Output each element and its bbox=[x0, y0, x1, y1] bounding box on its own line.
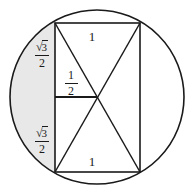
label-sqrt3-over-2-upper: √3 2 bbox=[28, 38, 56, 71]
fraction-sqrt3-over-2-lower: √3 2 bbox=[35, 126, 49, 155]
fraction-sqrt3-over-2-upper: √3 2 bbox=[35, 40, 49, 69]
fraction-denominator: 2 bbox=[38, 57, 46, 70]
fraction-denominator: 2 bbox=[38, 143, 46, 156]
geometry-figure: √3 2 1 2 √3 2 1 1 bbox=[0, 0, 191, 194]
label-sqrt3-over-2-lower: √3 2 bbox=[28, 124, 56, 157]
radical-radicand: 3 bbox=[42, 126, 49, 139]
fraction-denominator: 2 bbox=[67, 85, 75, 98]
label-one-bottom: 1 bbox=[84, 152, 100, 170]
fraction-one-half: 1 2 bbox=[65, 69, 78, 97]
label-one-top: 1 bbox=[84, 27, 100, 45]
fraction-numerator: 1 bbox=[67, 69, 75, 82]
radical-radicand: 3 bbox=[42, 40, 49, 53]
fraction-numerator: √3 bbox=[35, 40, 49, 54]
fraction-numerator: √3 bbox=[35, 126, 49, 140]
label-one-half-middle: 1 2 bbox=[58, 67, 84, 99]
